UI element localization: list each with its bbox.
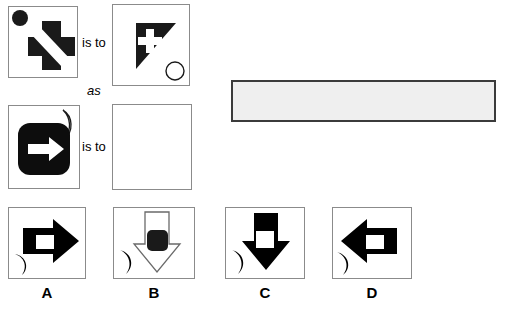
relation-label-is-to-2: is to bbox=[82, 140, 106, 153]
option-d-label: D bbox=[332, 285, 412, 300]
rectangle-hole-icon bbox=[256, 231, 274, 248]
option-b[interactable] bbox=[113, 207, 195, 279]
rectangle-hole-icon bbox=[366, 235, 384, 249]
crescent-moon-filled-icon bbox=[337, 252, 348, 275]
crescent-moon-filled-icon bbox=[232, 250, 243, 274]
arrow-left-block-icon bbox=[341, 219, 397, 263]
option-c[interactable] bbox=[225, 207, 305, 279]
panel-a1[interactable] bbox=[8, 6, 78, 78]
option-a-label: A bbox=[8, 285, 86, 300]
cross-with-diagonal-icon bbox=[28, 21, 75, 70]
panel-a1-figure bbox=[9, 7, 77, 77]
option-a[interactable] bbox=[8, 207, 86, 279]
arrow-right-block-icon bbox=[23, 219, 79, 263]
panel-b2-question[interactable] bbox=[112, 104, 192, 190]
panel-b1[interactable] bbox=[8, 105, 80, 189]
option-a-figure bbox=[9, 208, 85, 278]
circle-outline-icon bbox=[166, 62, 184, 80]
puzzle-stage: is to as is to bbox=[0, 0, 511, 320]
relation-label-as: as bbox=[87, 84, 101, 97]
panel-a2-figure bbox=[113, 5, 189, 85]
rounded-square-filled-icon bbox=[147, 230, 168, 251]
answer-display-bar[interactable] bbox=[231, 80, 496, 122]
option-b-figure bbox=[114, 208, 194, 278]
crescent-moon-filled-icon bbox=[120, 250, 131, 274]
crescent-moon-filled-icon bbox=[15, 254, 26, 275]
circle-filled-icon bbox=[12, 10, 28, 26]
relation-label-is-to-1: is to bbox=[82, 36, 106, 49]
option-d[interactable] bbox=[332, 207, 412, 279]
option-c-label: C bbox=[225, 285, 305, 300]
panel-b1-figure bbox=[9, 106, 79, 188]
arrow-down-block-icon bbox=[242, 213, 290, 270]
panel-a2[interactable] bbox=[112, 4, 190, 86]
option-b-label: B bbox=[113, 285, 195, 300]
triangle-with-cross-icon bbox=[136, 23, 176, 69]
rectangle-hole-icon bbox=[36, 235, 54, 249]
option-d-figure bbox=[333, 208, 411, 278]
option-c-figure bbox=[226, 208, 304, 278]
